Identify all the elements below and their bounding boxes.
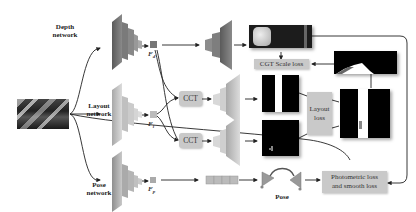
pose-network-label: Pose network	[82, 181, 116, 197]
depth-map-output	[249, 25, 312, 48]
cgt-scale-loss-box: CGT Scale loss	[254, 59, 309, 69]
depth-feature-cube	[150, 41, 157, 48]
layout-ground-truth-bev	[334, 51, 397, 74]
pose-feature-cube	[150, 177, 156, 183]
layout-road-output	[262, 75, 299, 112]
layout-loss-box: Layout loss	[307, 92, 332, 135]
depth-encoder	[112, 14, 142, 70]
photometric-line1: Photometric loss	[331, 173, 378, 182]
layout-label-line2: network	[82, 110, 116, 118]
layout-ground-truth-combined	[340, 89, 390, 138]
layout-vehicle-output	[262, 120, 299, 156]
input-road-image	[17, 99, 69, 129]
layout-loss-line1: Layout	[310, 105, 330, 114]
depth-label-line2: network	[48, 31, 82, 39]
feature-fp-label: Fp	[148, 185, 155, 194]
depth-label-line1: Depth	[48, 23, 82, 31]
photometric-line2: and smooth loss	[331, 182, 378, 191]
pose-label: Pose	[268, 193, 296, 201]
pose-tokens	[206, 176, 238, 184]
pose-label-line1: Pose	[82, 181, 116, 189]
feature-fd-label: Fd	[148, 50, 155, 59]
layout-loss-line2: loss	[310, 114, 330, 123]
layout-label-line1: Layout	[82, 102, 116, 110]
pose-label-line2: network	[82, 189, 116, 197]
cct-block-bottom: CCT	[179, 133, 202, 148]
camera-pose-icon	[260, 169, 301, 191]
pose-encoder	[112, 151, 142, 212]
layout-network-label: Layout network	[82, 102, 116, 118]
feature-fl-label: Fl	[148, 120, 154, 129]
layout-decoder-bottom	[213, 116, 240, 166]
photometric-smooth-loss-box: Photometric loss and smooth loss	[322, 171, 387, 193]
depth-network-label: Depth network	[48, 23, 82, 39]
depth-decoder	[205, 20, 232, 70]
layout-encoder	[112, 83, 142, 146]
layout-feature-cube	[150, 111, 157, 118]
cct-block-top: CCT	[179, 91, 202, 106]
layout-decoder-top	[213, 74, 240, 124]
